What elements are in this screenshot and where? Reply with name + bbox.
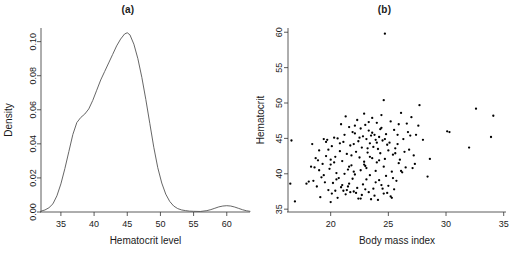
scatter-point: [392, 154, 394, 156]
scatter-point: [360, 127, 362, 129]
scatter-point: [334, 156, 336, 158]
x-tick-label: 35: [499, 219, 509, 229]
scatter-point: [418, 104, 420, 106]
scatter-point: [331, 145, 333, 147]
scatter-point: [317, 159, 319, 161]
y-axis-title: Density: [3, 103, 14, 136]
scatter-point: [294, 200, 296, 202]
scatter-point: [384, 138, 386, 140]
scatter-point: [429, 158, 431, 160]
scatter-point: [332, 182, 334, 184]
y-axis-title: Hematocrit: [256, 96, 266, 145]
scatter-point: [391, 171, 393, 173]
scatter-point: [336, 137, 338, 139]
scatter-point: [448, 131, 450, 133]
scatter-point: [340, 123, 342, 125]
scatter-point: [387, 185, 389, 187]
scatter-point: [383, 99, 385, 101]
scatter-point: [365, 138, 367, 140]
y-tick-label: 60: [274, 27, 284, 37]
scatter-point: [363, 163, 365, 165]
scatter-point: [370, 198, 372, 200]
scatter-point: [354, 132, 356, 134]
scatter-point: [371, 132, 373, 134]
scatter-point: [318, 149, 320, 151]
scatter-point: [363, 161, 365, 163]
scatter-point: [350, 164, 352, 166]
scatter-point: [468, 146, 470, 148]
scatter-point: [475, 108, 477, 110]
scatter-point: [373, 134, 375, 136]
scatter-point: [328, 168, 330, 170]
scatter-point: [325, 141, 327, 143]
scatter-point: [361, 194, 363, 196]
scatter-point: [400, 170, 402, 172]
scatter-point: [384, 33, 386, 35]
scatter-point: [376, 142, 378, 144]
scatter-point: [378, 159, 380, 161]
scatter-point: [348, 183, 350, 185]
scatter-point: [346, 189, 348, 191]
scatter-point: [347, 185, 349, 187]
scatter-point: [369, 156, 371, 158]
scatter-point: [331, 192, 333, 194]
scatter-point: [333, 161, 335, 163]
scatter-point: [351, 131, 353, 133]
scatter-point: [381, 188, 383, 190]
scatter-point: [325, 155, 327, 157]
scatter-point: [492, 115, 494, 117]
scatter-point: [406, 122, 408, 124]
scatter-point: [376, 122, 378, 124]
scatter-point: [315, 157, 317, 159]
x-tick-label: 30: [441, 219, 451, 229]
scatter-point: [357, 197, 359, 199]
y-tick-label: 50: [274, 98, 284, 108]
scatter-point: [346, 153, 348, 155]
scatter-point: [334, 190, 336, 192]
scatter-point: [415, 134, 417, 136]
scatter-point: [355, 192, 357, 194]
scatter-point: [323, 138, 325, 140]
scatter-point: [388, 142, 390, 144]
y-tick-label: 0.00: [28, 203, 38, 221]
scatter-point: [446, 130, 448, 132]
scatter-point: [342, 190, 344, 192]
scatter-point: [360, 169, 362, 171]
scatter-point: [356, 187, 358, 189]
scatter-point: [375, 139, 377, 141]
scatter-point: [312, 180, 314, 182]
scatter-point: [383, 192, 385, 194]
x-tick-label: 50: [155, 219, 165, 229]
scatter-point: [402, 138, 404, 140]
x-tick-label: 55: [189, 219, 199, 229]
scatter-point: [356, 119, 358, 121]
scatter-point: [408, 149, 410, 151]
x-axis-title: Body mass index: [359, 235, 435, 246]
scatter-point: [319, 196, 321, 198]
scatter-point: [396, 143, 398, 145]
scatter-point: [396, 134, 398, 136]
scatter-point: [364, 124, 366, 126]
scatter-point: [414, 163, 416, 165]
scatter-point: [378, 179, 380, 181]
x-axis-title: Hematocrit level: [110, 235, 182, 246]
scatter-point: [391, 197, 393, 199]
scatter-point: [366, 147, 368, 149]
scatter-plot-svg: 20253035354045505560Body mass indexHemat…: [256, 0, 513, 263]
scatter-point: [365, 178, 367, 180]
scatter-point: [336, 197, 338, 199]
scatter-point: [318, 169, 320, 171]
y-tick-label: 0.10: [28, 33, 38, 51]
y-tick-label: 0.08: [28, 67, 38, 85]
figure-container: (a) 3540455055600.000.020.040.060.080.10…: [0, 0, 513, 263]
scatter-point: [385, 175, 387, 177]
y-tick-label: 0.06: [28, 101, 38, 119]
scatter-point: [372, 188, 374, 190]
scatter-point: [373, 195, 375, 197]
scatter-point: [377, 148, 379, 150]
scatter-point: [394, 152, 396, 154]
scatter-point: [354, 173, 356, 175]
scatter-point: [384, 158, 386, 160]
scatter-point: [320, 176, 322, 178]
scatter-point: [305, 183, 307, 185]
